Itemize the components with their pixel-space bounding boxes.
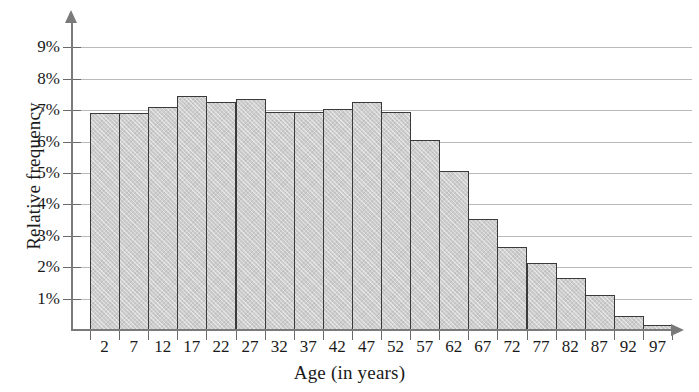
histogram-bar bbox=[410, 140, 440, 330]
histogram-bar bbox=[90, 113, 120, 330]
histogram-bar bbox=[585, 295, 615, 330]
histogram-bar bbox=[148, 107, 178, 330]
histogram-bar bbox=[614, 316, 644, 330]
y-axis-line bbox=[71, 20, 73, 330]
bars-group bbox=[0, 0, 699, 330]
histogram-bar bbox=[439, 171, 469, 330]
histogram-bar bbox=[236, 99, 266, 330]
histogram-bar bbox=[119, 113, 149, 330]
histogram-bar bbox=[381, 112, 411, 330]
histogram-bar bbox=[206, 102, 236, 330]
x-axis-title: Age (in years) bbox=[0, 362, 699, 384]
histogram-bar bbox=[468, 219, 498, 330]
plot-area: 1%2%3%4%5%6%7%8%9% 271217222732374247525… bbox=[0, 0, 699, 392]
histogram-bar bbox=[352, 102, 382, 330]
histogram-bar bbox=[527, 263, 557, 331]
histogram-bar bbox=[177, 96, 207, 330]
histogram-bar bbox=[265, 112, 295, 330]
y-axis-arrowhead-icon bbox=[65, 10, 77, 23]
histogram-bar bbox=[556, 278, 586, 330]
x-axis-tick-label: 97 bbox=[637, 337, 677, 357]
histogram-bar bbox=[497, 247, 527, 330]
x-axis-arrowhead-icon bbox=[671, 324, 684, 336]
histogram-bar bbox=[294, 112, 324, 330]
histogram-bar bbox=[323, 109, 353, 330]
histogram-figure: Relative frequency 1%2%3%4%5%6%7%8%9% 27… bbox=[0, 0, 699, 392]
x-axis-line bbox=[71, 329, 673, 331]
